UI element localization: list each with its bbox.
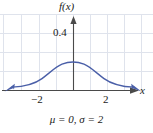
x-axis-title: x [140,85,145,96]
figure-caption: μ = 0, σ = 2 [0,114,153,125]
x-axis-tick-label-neg2: −2 [31,94,43,105]
y-axis-title: f(x) [59,1,74,12]
normal-curve-path [12,62,134,87]
normal-distribution-figure: f(x) x 0.4 −2 2 μ = 0, σ = 2 [0,0,153,133]
curve-left-arrowhead-icon [5,84,15,92]
y-axis-tick-label-0.4: 0.4 [53,27,67,38]
x-axis-tick-label-pos2: 2 [103,94,109,105]
